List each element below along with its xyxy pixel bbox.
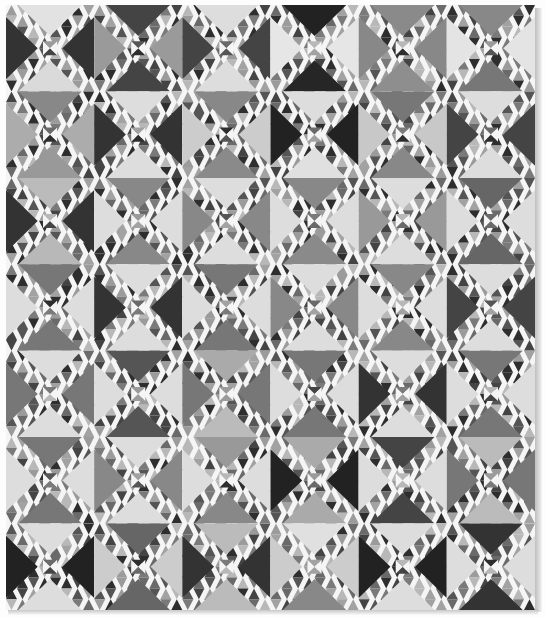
quilt-block <box>94 91 182 177</box>
quilt-block <box>94 437 182 523</box>
quilt-block <box>6 91 94 177</box>
quilt-block <box>6 524 94 610</box>
quilt-block <box>447 91 535 177</box>
quilt-block <box>271 91 359 177</box>
quilt-block <box>271 5 359 91</box>
quilt-block <box>182 5 270 91</box>
quilt-block <box>447 178 535 264</box>
quilt-block <box>359 91 447 177</box>
quilt <box>6 5 535 610</box>
quilt-block <box>182 178 270 264</box>
quilt-shadow-right <box>534 8 542 612</box>
quilt-block <box>182 264 270 350</box>
quilt-block <box>6 178 94 264</box>
quilt-block <box>94 264 182 350</box>
quilt-blocks <box>6 5 535 610</box>
quilt-block <box>271 437 359 523</box>
quilt-block <box>359 437 447 523</box>
quilt-block <box>271 524 359 610</box>
quilt-block <box>182 91 270 177</box>
quilt-block <box>6 351 94 437</box>
quilt-block <box>182 437 270 523</box>
quilt-block <box>94 178 182 264</box>
quilt-block <box>94 5 182 91</box>
quilt-block <box>359 351 447 437</box>
quilt-block <box>359 178 447 264</box>
quilt-block <box>271 351 359 437</box>
quilt-block <box>359 264 447 350</box>
quilt-block <box>94 524 182 610</box>
quilt-block <box>447 264 535 350</box>
quilt-block <box>271 178 359 264</box>
quilt-block <box>6 437 94 523</box>
quilt-block <box>359 5 447 91</box>
quilt-block <box>6 264 94 350</box>
quilt-block <box>447 437 535 523</box>
quilt-block <box>94 351 182 437</box>
quilt-block <box>182 351 270 437</box>
quilt-block <box>447 5 535 91</box>
quilt-block <box>447 351 535 437</box>
quilt-block <box>271 264 359 350</box>
quilt-block <box>6 5 94 91</box>
quilt-block <box>359 524 447 610</box>
quilt-photo: Ocean Waves pieced quilt, black-and-whit… <box>0 0 546 618</box>
quilt-block <box>447 524 535 610</box>
quilt-block <box>182 524 270 610</box>
